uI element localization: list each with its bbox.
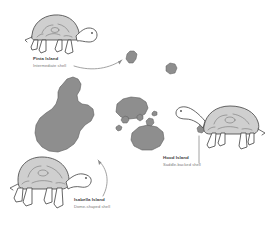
pinta-tortoise-front-leg bbox=[65, 40, 73, 54]
label-isabella: Isabella Island Dome-shaped shell bbox=[74, 197, 110, 209]
pinta-tortoise bbox=[25, 15, 97, 54]
island-islet-e bbox=[152, 111, 157, 116]
hood-tortoise-tail bbox=[258, 129, 265, 135]
isabella-tortoise-front-leg-2 bbox=[44, 188, 52, 204]
isabella-tortoise-eye bbox=[85, 177, 87, 179]
hood-tortoise-rear-leg-2 bbox=[248, 133, 254, 145]
label-pinta: Pinta Island Intermediate shell bbox=[33, 56, 66, 68]
label-isabella-shell: Dome-shaped shell bbox=[74, 204, 110, 209]
illustration-canvas bbox=[0, 0, 268, 231]
isabella-connector-arrow bbox=[98, 160, 107, 196]
pinta-tortoise-front-leg-2 bbox=[55, 40, 62, 52]
hood-tortoise bbox=[176, 106, 265, 149]
label-hood-shell: Saddle-backed shell bbox=[163, 162, 201, 167]
island-pinta-island bbox=[126, 51, 137, 63]
label-pinta-island: Pinta Island bbox=[33, 56, 66, 62]
pinta-connector-arrow bbox=[74, 60, 122, 69]
pinta-tortoise-rear-leg-2 bbox=[31, 40, 38, 50]
hood-tortoise-rear-leg bbox=[239, 133, 247, 149]
island-islet-c bbox=[146, 118, 154, 126]
island-isabella-island bbox=[35, 77, 94, 152]
label-hood-island: Hood Island bbox=[163, 155, 201, 161]
pinta-tortoise-eye bbox=[91, 32, 93, 34]
label-pinta-shell: Intermediate shell bbox=[33, 63, 66, 68]
hood-tortoise-front-leg-2 bbox=[218, 133, 225, 146]
isabella-tortoise-front-leg bbox=[54, 188, 63, 208]
connector-group bbox=[74, 60, 199, 196]
island-islet-d bbox=[116, 125, 122, 131]
island-santiago-island bbox=[116, 97, 148, 119]
isabella-tortoise-shell bbox=[18, 157, 69, 189]
island-marchena-island bbox=[166, 63, 177, 74]
hood-tortoise-shell bbox=[204, 106, 259, 134]
galapagos-tortoise-figure: Pinta Island Intermediate shell Hood Isl… bbox=[0, 0, 268, 231]
hood-tortoise-eye bbox=[180, 110, 182, 112]
isabella-tortoise-rear-leg-2 bbox=[14, 188, 23, 202]
isabella-tortoise-tail bbox=[10, 184, 18, 190]
label-isabella-island: Isabella Island bbox=[74, 197, 110, 203]
pinta-tortoise-tail bbox=[25, 37, 32, 42]
pinta-tortoise-head bbox=[76, 28, 97, 42]
isabella-tortoise-rear-leg bbox=[23, 188, 32, 206]
pinta-connector-arrowhead bbox=[118, 60, 122, 65]
isabella-tortoise-head bbox=[66, 174, 91, 189]
isabella-connector-arrowhead bbox=[98, 160, 102, 165]
hood-tortoise-front-leg bbox=[207, 133, 216, 148]
pinta-tortoise-rear-leg bbox=[39, 40, 46, 53]
hood-tortoise-head bbox=[176, 107, 205, 128]
label-hood: Hood Island Saddle-backed shell bbox=[163, 155, 201, 167]
island-santa-cruz-island bbox=[131, 125, 164, 150]
